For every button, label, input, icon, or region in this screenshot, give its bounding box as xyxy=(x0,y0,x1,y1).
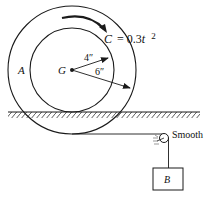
ground-surface xyxy=(8,112,200,118)
center-label: G xyxy=(58,64,66,76)
inner-radius-label: 4″ xyxy=(84,52,93,63)
moment-arrow-icon xyxy=(62,16,104,29)
couple-label: C = 0.3t 2 xyxy=(104,31,156,46)
pulley-label: Smooth xyxy=(172,129,203,140)
wheel-block-diagram: A G 4″ 6″ C = 0.3t 2 Smooth B xyxy=(0,0,210,197)
wheel-label: A xyxy=(17,64,25,76)
block-label: B xyxy=(164,174,170,185)
outer-radius-label: 6″ xyxy=(95,66,104,77)
pulley xyxy=(153,134,169,145)
